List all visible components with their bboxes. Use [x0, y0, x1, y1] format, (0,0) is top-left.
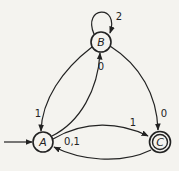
state-c: C — [150, 132, 171, 153]
edge-label-b-b: 2 — [116, 11, 122, 22]
edge-label-a-c: 1 — [130, 117, 136, 128]
edge-label-b-c: 0 — [161, 108, 167, 119]
edge-c-a — [54, 147, 151, 159]
automaton-diagram: 2 1 0 0 1 0,1 B A C — [0, 0, 179, 171]
state-c-label: C — [156, 136, 164, 149]
state-a: A — [33, 132, 53, 152]
edge-label-a-b: 0 — [98, 61, 104, 72]
edge-label-c-a: 0,1 — [64, 136, 80, 147]
edge-label-b-a: 1 — [35, 108, 41, 119]
state-b-label: B — [97, 36, 105, 49]
state-a-label: A — [38, 136, 47, 149]
edge-b-b — [92, 12, 112, 34]
edge-a-b — [52, 53, 100, 136]
state-b: B — [91, 32, 111, 52]
edge-b-a — [41, 47, 92, 131]
